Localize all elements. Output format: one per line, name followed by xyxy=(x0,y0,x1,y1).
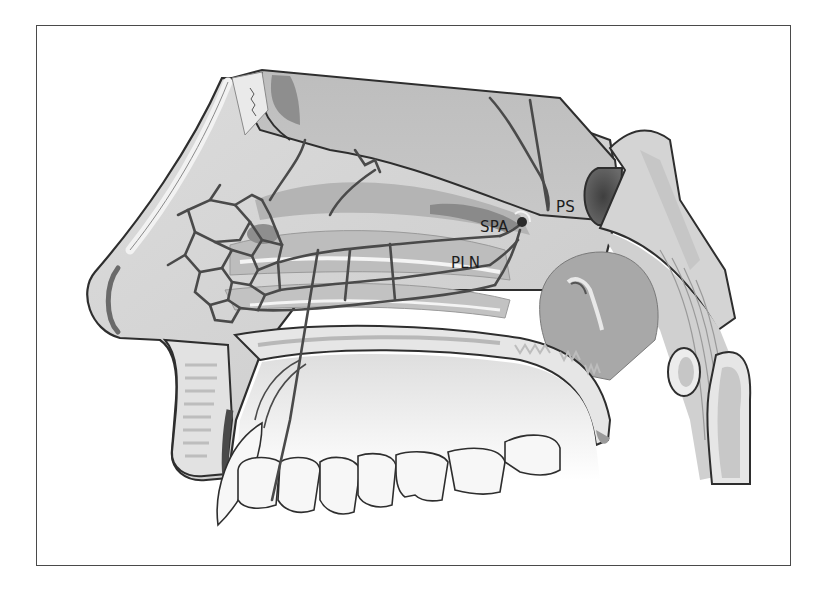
nasal-turbinates xyxy=(225,182,530,318)
spa-foramen xyxy=(517,217,527,227)
label-ps: PS xyxy=(556,200,575,215)
label-pln: PLN xyxy=(451,256,480,271)
nasal-cavity-illustration xyxy=(0,0,819,598)
label-spa: SPA xyxy=(480,220,508,235)
